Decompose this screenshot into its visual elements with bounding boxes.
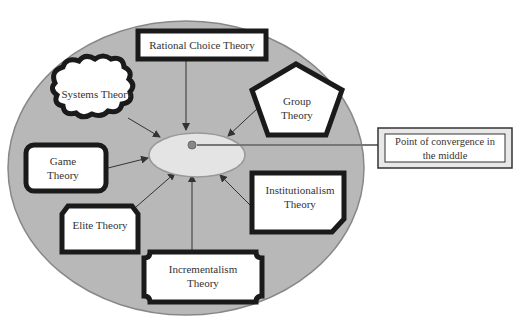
node-group-label: Group Theory xyxy=(272,90,322,126)
callout-label: Point of convergence in the middle xyxy=(388,135,502,163)
node-rational-label: Rational Choice Theory xyxy=(140,33,264,57)
node-institutional-label: Institutionalism Theory xyxy=(256,177,344,217)
convergence-point xyxy=(188,141,196,149)
convergence-ellipse xyxy=(149,133,245,177)
node-incremental-label: Incrementalism Theory xyxy=(162,256,244,296)
node-elite-label: Elite Theory xyxy=(66,210,134,240)
node-systems-label: Systems Theory xyxy=(52,80,142,108)
node-game-label: Game Theory xyxy=(36,150,90,186)
